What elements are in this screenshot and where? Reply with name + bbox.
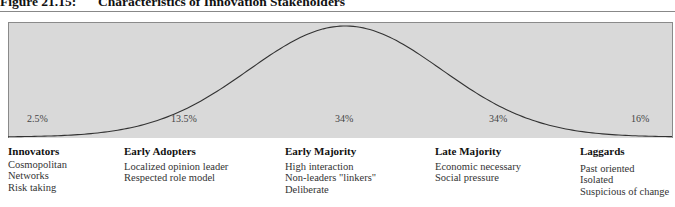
category-laggards: Laggards Past oriented Isolated Suspicio… xyxy=(580,146,669,197)
category-early-adopters: Early Adopters Localized opinion leader … xyxy=(124,146,228,184)
figure-number: Figure 21.15: xyxy=(0,0,98,10)
category-heading: Late Majority xyxy=(435,146,521,158)
trait: Suspicious of change xyxy=(580,186,669,198)
pct-late-majority: 34% xyxy=(489,113,507,124)
trait: Non-leaders "linkers" xyxy=(285,172,376,184)
title-rule xyxy=(0,11,675,12)
category-heading: Early Majority xyxy=(285,146,376,158)
category-heading: Early Adopters xyxy=(124,146,228,158)
trait: Networks xyxy=(8,170,67,182)
category-heading: Laggards xyxy=(580,146,669,158)
trait: Risk taking xyxy=(8,182,67,194)
trait: Past oriented xyxy=(580,163,669,175)
trait: Localized opinion leader xyxy=(124,161,228,173)
trait: Social pressure xyxy=(435,172,521,184)
pct-laggards: 16% xyxy=(631,113,649,124)
trait: Cosmopolitan xyxy=(8,159,67,171)
trait: High interaction xyxy=(285,161,376,173)
trait: Deliberate xyxy=(285,184,376,196)
figure-title: Figure 21.15:Characteristics of Innovati… xyxy=(0,0,345,10)
trait: Economic necessary xyxy=(435,161,521,173)
trait: Respected role model xyxy=(124,172,228,184)
pct-innovators: 2.5% xyxy=(27,113,48,124)
pct-early-majority: 34% xyxy=(335,113,353,124)
trait: Isolated xyxy=(580,174,669,186)
category-innovators: Innovators Cosmopolitan Networks Risk ta… xyxy=(8,146,67,193)
category-early-majority: Early Majority High interaction Non-lead… xyxy=(285,146,376,195)
category-late-majority: Late Majority Economic necessary Social … xyxy=(435,146,521,184)
pct-early-adopters: 13.5% xyxy=(171,113,197,124)
category-heading: Innovators xyxy=(8,146,67,158)
figure-title-text: Characteristics of Innovation Stakeholde… xyxy=(98,0,345,9)
